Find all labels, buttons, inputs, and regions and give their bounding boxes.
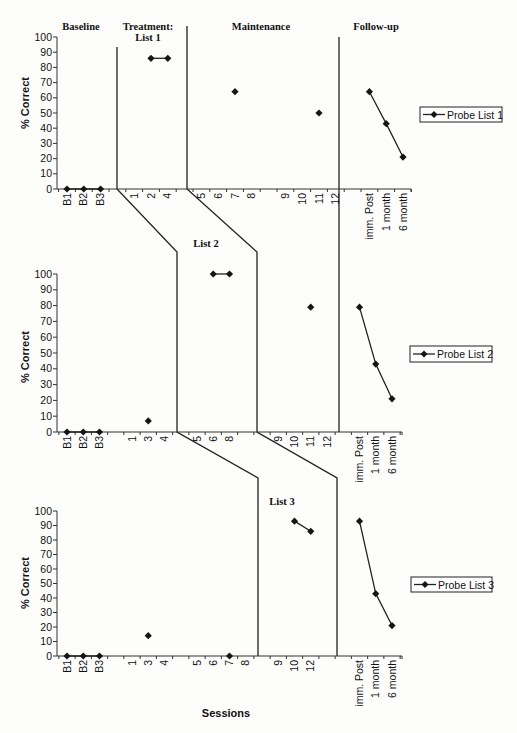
x-tick-label: 9 [272,436,284,442]
diamond-marker-icon [356,518,363,525]
y-tick-label: 20 [40,621,52,633]
x-tick-label: B1 [61,193,73,206]
y-tick-label: 0 [46,650,52,662]
x-tick-label: 6 month [386,436,398,474]
plot-layer: 0102030405060708090100B1B2B3124567891011… [34,26,411,707]
phase-header-maintenance: Maintenance [232,21,291,32]
y-tick-label: 70 [40,315,52,327]
x-tick-label: 8 [223,436,235,442]
diamond-marker-icon [307,528,314,535]
x-tick-label: 10 [288,660,300,672]
diamond-marker-icon [307,304,314,311]
y-tick-label: 40 [40,592,52,604]
x-tick-label: 10 [288,436,300,448]
diamond-marker-icon [145,417,152,424]
x-tick-label: B3 [93,436,105,449]
x-tick-label: 11 [313,193,325,204]
x-tick-label: 8 [239,660,251,666]
x-tick-label: 1 month [380,193,392,231]
diamond-marker-icon [145,632,152,639]
diamond-marker-icon [388,622,395,629]
legend-label: Probe List 1 [447,109,503,121]
x-tick-label: 1 month [369,436,381,474]
diamond-marker-icon [63,428,70,435]
y-tick-label: 10 [40,635,52,647]
y-tick-label: 80 [40,299,52,311]
x-tick-label: 1 [126,436,138,442]
y-axis-title-panel-1: % Correct [19,77,31,129]
legend-label: Probe List 2 [437,348,493,360]
y-tick-label: 60 [40,91,52,103]
y-tick-label: 40 [40,362,52,374]
diamond-marker-icon [96,428,103,435]
y-tick-label: 0 [46,183,52,195]
x-tick-label: 5 [191,436,203,442]
diamond-marker-icon [96,652,103,659]
x-tick-label: 6 month [397,193,409,231]
legend-panel-1: Probe List 1 [420,107,503,122]
phase-header-follow-up: Follow-up [353,21,399,32]
data-line-follow-up [360,307,393,399]
x-tick-label: 4 [161,193,173,199]
x-tick-label: 5 [191,660,203,666]
diamond-marker-icon [231,88,238,95]
diamond-marker-icon [63,185,70,192]
x-tick-label: 4 [158,436,170,442]
panel-3: 0102030405060708090100B1B2B3134567891012… [34,505,402,707]
x-tick-label: 7 [229,193,241,199]
x-tick-label: 11 [304,436,316,447]
y-tick-label: 50 [40,577,52,589]
panel-label-list-3: List 3 [269,496,294,507]
panel-1: 0102030405060708090100B1B2B3124567891011… [34,31,411,240]
y-tick-label: 30 [40,137,52,149]
x-tick-label: 10 [296,193,308,205]
diamond-marker-icon [399,153,406,160]
y-axis-title-panel-3: % Correct [19,557,31,609]
x-axis-title: Sessions [202,707,250,719]
x-tick-label: 9 [279,193,291,199]
diamond-marker-icon [80,428,87,435]
diamond-marker-icon [164,55,171,62]
diamond-marker-icon [80,652,87,659]
panel-2: 0102030405060708090100B1B2B3134568910111… [34,268,402,483]
legend-panel-3: Probe List 3 [411,577,494,592]
diamond-marker-icon [388,395,395,402]
x-tick-label: 8 [245,193,257,199]
phase-header-baseline: Baseline [62,21,100,32]
x-tick-label: 3 [142,436,154,442]
x-tick-label: B1 [61,660,73,673]
y-tick-label: 10 [40,410,52,422]
x-tick-label: B3 [93,660,105,673]
x-tick-label: B3 [94,193,106,206]
y-tick-label: 30 [40,606,52,618]
y-tick-label: 0 [46,426,52,438]
x-tick-label: 6 [207,436,219,442]
y-axis-title-panel-2: % Correct [19,331,31,383]
y-tick-label: 20 [40,152,52,164]
x-tick-label: 6 month [386,660,398,698]
diamond-marker-icon [226,270,233,277]
diamond-marker-icon [80,185,87,192]
diamond-marker-icon [63,652,70,659]
legend-label: Probe List 3 [438,579,494,591]
y-tick-label: 90 [40,519,52,531]
y-tick-label: 20 [40,394,52,406]
x-tick-label: B2 [77,660,89,673]
y-tick-label: 100 [34,31,52,43]
x-tick-label: 5 [195,193,207,199]
x-tick-label: imm. Post [363,193,375,240]
y-tick-label: 90 [40,46,52,58]
x-tick-label: 1 month [369,660,381,698]
phase-line-treatment-maintenance [187,26,337,656]
x-tick-label: 12 [321,436,333,448]
legend-panel-2: Probe List 2 [410,346,493,362]
x-tick-label: 4 [158,660,170,666]
x-tick-label: B1 [61,436,73,449]
diamond-marker-icon [383,120,390,127]
y-tick-label: 70 [40,548,52,560]
y-tick-label: 80 [40,534,52,546]
diamond-marker-icon [291,518,298,525]
x-tick-label: B2 [77,193,89,206]
x-tick-label: 6 [212,193,224,199]
diamond-marker-icon [372,360,379,367]
